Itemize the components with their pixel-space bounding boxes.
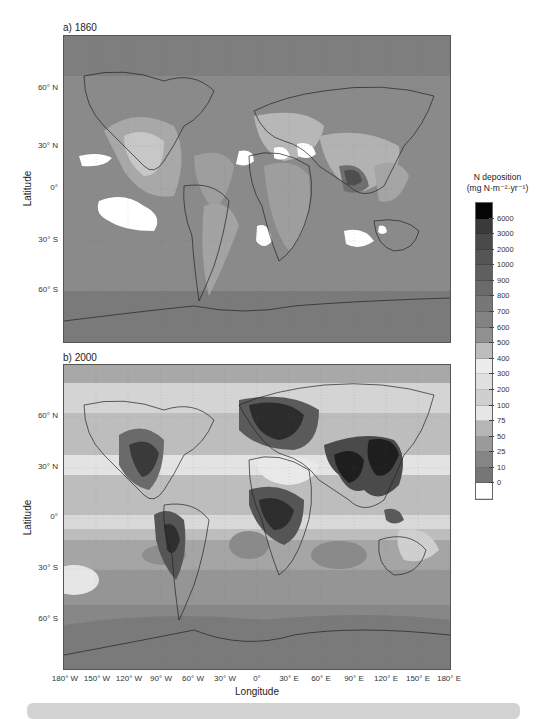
colorbar-label: 2000	[497, 244, 514, 253]
colorbar-segment	[476, 359, 492, 375]
lon-label-150w: 150° W	[84, 674, 110, 683]
colorbar-label: 300	[497, 369, 510, 378]
x-axis-title: Longitude	[235, 686, 279, 697]
map-2000	[63, 364, 451, 670]
lon-label-60e: 60° E	[311, 674, 331, 683]
lon-label-180w: 180° W	[52, 674, 78, 683]
lon-label-0: 0°	[253, 674, 261, 683]
colorbar-tick	[489, 373, 494, 374]
colorbar-tick	[489, 311, 494, 312]
colorbar-segment	[476, 343, 492, 359]
colorbar-label: 100	[497, 400, 510, 409]
colorbar-label: 900	[497, 275, 510, 284]
colorbar-label: 50	[497, 431, 505, 440]
colorbar-segment	[476, 296, 492, 312]
colorbar-tick	[489, 327, 494, 328]
lat-label-30s-a: 30° S	[18, 235, 58, 244]
colorbar-label: 600	[497, 322, 510, 331]
colorbar-segment	[476, 468, 492, 484]
colorbar-segment	[476, 312, 492, 328]
colorbar-segment	[476, 219, 492, 235]
colorbar-tick	[489, 482, 494, 483]
lon-label-90w: 90° W	[150, 674, 172, 683]
colorbar-segment	[476, 328, 492, 344]
colorbar-segment	[476, 250, 492, 266]
colorbar-label: 25	[497, 447, 505, 456]
colorbar-tick	[489, 405, 494, 406]
colorbar-label: 3000	[497, 229, 514, 238]
colorbar-label: 10	[497, 462, 505, 471]
colorbar-tick	[489, 280, 494, 281]
y-axis-title-a: Latitude	[22, 171, 33, 207]
colorbar-title-line1: N deposition	[452, 172, 543, 183]
lat-label-30n-a: 30° N	[18, 141, 58, 150]
lat-label-60n-b: 60° N	[18, 411, 58, 420]
colorbar-label: 500	[497, 338, 510, 347]
colorbar-segment	[476, 406, 492, 422]
lat-label-30n-b: 30° N	[18, 462, 58, 471]
lon-label-120w: 120° W	[116, 674, 142, 683]
panel-a-title: a) 1860	[63, 22, 97, 33]
lon-label-90e: 90° E	[344, 674, 364, 683]
colorbar-label: 0	[497, 478, 501, 487]
colorbar-segment	[476, 452, 492, 468]
lon-label-150e: 150° E	[406, 674, 430, 683]
colorbar-tick	[489, 358, 494, 359]
colorbar-tick	[489, 218, 494, 219]
map-1860-raster	[64, 36, 450, 342]
colorbar-label: 800	[497, 291, 510, 300]
colorbar-label: 75	[497, 416, 505, 425]
colorbar-tick	[489, 389, 494, 390]
lat-label-30s-b: 30° S	[18, 563, 58, 572]
map-1860	[63, 35, 451, 343]
colorbar-title-line2: (mg N·m⁻²·yr⁻¹)	[452, 183, 543, 194]
colorbar-tick	[489, 295, 494, 296]
lon-label-60w: 60° W	[182, 674, 204, 683]
colorbar-label: 1000	[497, 260, 514, 269]
lat-label-60s-b: 60° S	[18, 614, 58, 623]
lon-label-30w: 30° W	[214, 674, 236, 683]
colorbar-tick	[489, 342, 494, 343]
colorbar-tick	[489, 420, 494, 421]
colorbar-label: 400	[497, 353, 510, 362]
colorbar-label: 6000	[497, 213, 514, 222]
bottom-bar	[27, 703, 520, 719]
colorbar-segment	[476, 483, 492, 499]
colorbar-tick	[489, 249, 494, 250]
lon-label-30e: 30° E	[279, 674, 299, 683]
colorbar	[475, 202, 493, 500]
colorbar-label: 200	[497, 384, 510, 393]
colorbar-segment	[476, 374, 492, 390]
colorbar-tick	[489, 436, 494, 437]
colorbar-label: 700	[497, 307, 510, 316]
colorbar-tick	[489, 451, 494, 452]
colorbar-segment	[476, 234, 492, 250]
colorbar-title: N deposition (mg N·m⁻²·yr⁻¹)	[452, 172, 543, 194]
colorbar-segment	[476, 265, 492, 281]
colorbar-segment	[476, 437, 492, 453]
lat-label-60n-a: 60° N	[18, 83, 58, 92]
colorbar-tick	[489, 467, 494, 468]
colorbar-segment	[476, 421, 492, 437]
panel-b-title: b) 2000	[63, 352, 97, 363]
colorbar-tick	[489, 264, 494, 265]
lon-label-120e: 120° E	[374, 674, 398, 683]
colorbar-segment	[476, 281, 492, 297]
lon-label-180e: 180° E	[437, 674, 461, 683]
colorbar-segment	[476, 203, 492, 219]
colorbar-tick	[489, 233, 494, 234]
map-2000-raster	[64, 365, 450, 669]
lat-label-60s-a: 60° S	[18, 285, 58, 294]
y-axis-title-b: Latitude	[22, 500, 33, 536]
colorbar-segment	[476, 390, 492, 406]
